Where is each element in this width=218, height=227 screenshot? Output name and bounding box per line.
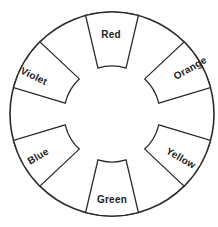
segment-label-green: Green bbox=[97, 194, 127, 205]
segment-label-red: Red bbox=[101, 29, 121, 40]
color-wheel-diagram: Red Orange Yellow Green Blue Violet bbox=[0, 0, 218, 227]
